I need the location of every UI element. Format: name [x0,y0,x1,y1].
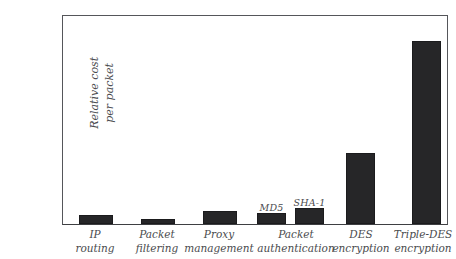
category-label-triple-des-encryption: Triple-DES encryption [390,228,456,255]
category-label-line-2: management [182,242,256,256]
plot-area: Relative cost per packet 10 20 30 40 50 … [62,15,448,225]
bar-packet-filtering [141,219,175,224]
category-label-line-1: DES [327,228,395,242]
bar-sha-1 [295,208,324,224]
category-label-line-1: Proxy [182,228,256,242]
bar-md5 [257,213,286,224]
category-label-line-1: Triple-DES [390,228,456,242]
y-axis-title-line-1: Relative cost [88,47,103,139]
category-label-proxy-management: Proxy management [182,228,256,255]
category-label-line-2: routing [65,242,125,256]
category-label-ip-routing: IP routing [65,228,125,255]
bar-annotation-sha-1: SHA-1 [292,197,327,208]
category-label-line-2: filtering [127,242,187,256]
category-label-packet-filtering: Packet filtering [127,228,187,255]
bar-proxy-management [203,211,237,224]
category-label-line-1: Packet [127,228,187,242]
category-label-line-1: IP [65,228,125,242]
y-axis-title-line-2: per packet [103,47,118,139]
bar-ip-routing [79,215,113,224]
category-label-line-2: encryption [390,242,456,256]
y-axis-title: Relative cost per packet [88,47,118,139]
bar-annotation-md5: MD5 [254,202,289,213]
bar-chart: Relative cost per packet 10 20 30 40 50 … [0,0,456,259]
category-label-des-encryption: DES encryption [327,228,395,255]
bar-triple-des-encryption [412,41,441,224]
bar-des-encryption [346,153,375,224]
category-label-line-2: encryption [327,242,395,256]
